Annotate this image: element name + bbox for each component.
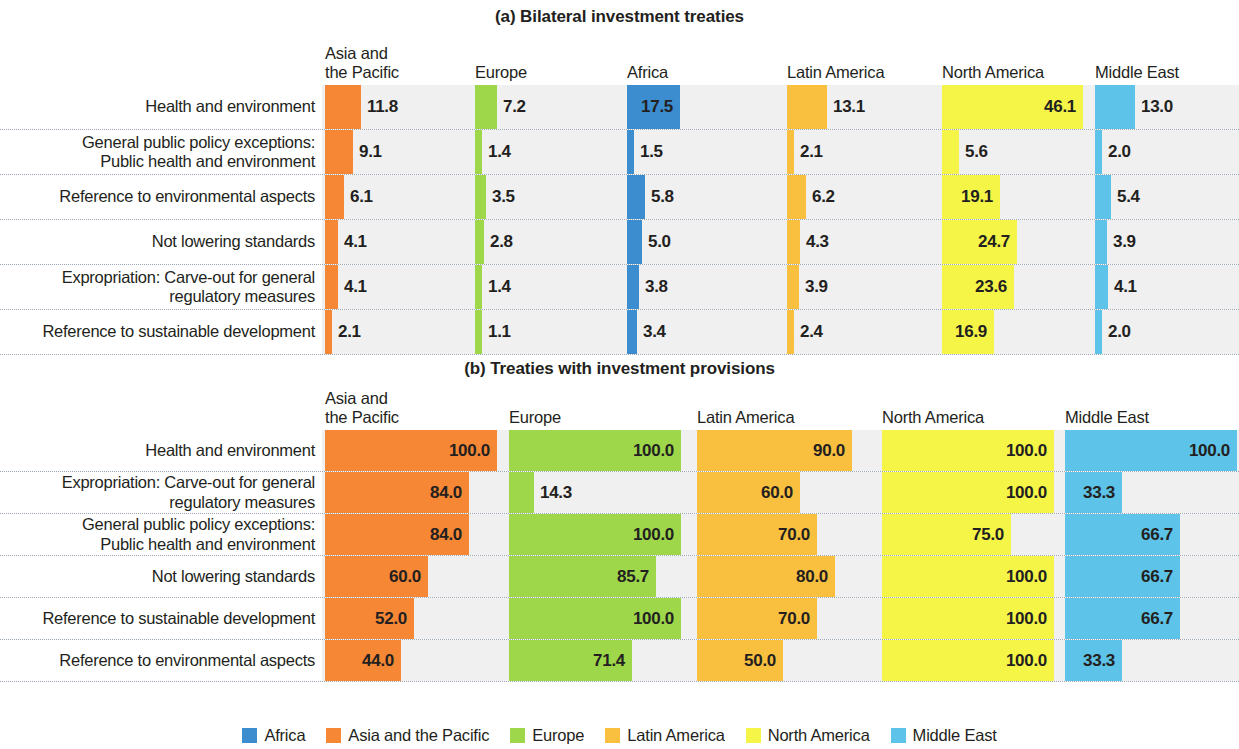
- bar: [787, 310, 794, 354]
- legend-item[interactable]: Africa: [242, 726, 305, 745]
- panel-b-title: (b) Treaties with investment provisions: [0, 355, 1239, 384]
- bar-cell: 23.6: [942, 265, 1014, 309]
- legend-item[interactable]: Middle East: [891, 726, 997, 745]
- panel-a-title: (a) Bilateral investment treaties: [0, 0, 1239, 33]
- plot-area: 9.11.41.52.15.62.0: [322, 130, 1239, 174]
- bar: [325, 265, 338, 309]
- bar-value-label: 2.1: [800, 142, 823, 162]
- bar-cell: 1.4: [475, 265, 511, 309]
- bar-cell: 60.0: [697, 472, 800, 513]
- panel-a-column-headers: Asia and the PacificEuropeAfricaLatin Am…: [0, 33, 1239, 85]
- bar: [627, 175, 645, 219]
- bar: 46.1: [942, 85, 1083, 129]
- legend-swatch-icon: [746, 728, 761, 743]
- bar-cell: 84.0: [325, 472, 469, 513]
- bar-cell: 44.0: [325, 640, 401, 681]
- bar-cell: 3.8: [627, 265, 668, 309]
- panel-b-rows: Health and environment100.0100.090.0100.…: [0, 430, 1239, 682]
- bar-value-label: 70.0: [778, 525, 810, 545]
- bar: [627, 310, 637, 354]
- bar: 44.0: [325, 640, 401, 681]
- bar-cell: 100.0: [509, 514, 681, 555]
- bar-cell: 4.1: [1095, 265, 1137, 309]
- bar-value-label: 100.0: [1006, 441, 1047, 461]
- column-header: North America: [942, 63, 1044, 82]
- bar-value-label: 3.4: [643, 322, 666, 342]
- bar-value-label: 84.0: [430, 525, 462, 545]
- bar: 52.0: [325, 598, 414, 639]
- plot-area: 52.0100.070.0100.066.7: [322, 598, 1239, 639]
- bar: 23.6: [942, 265, 1014, 309]
- chart-row: Health and environment11.87.217.513.146.…: [0, 85, 1239, 130]
- bar-value-label: 2.0: [1108, 322, 1131, 342]
- bar-cell: 3.5: [475, 175, 515, 219]
- chart-row: Health and environment100.0100.090.0100.…: [0, 430, 1239, 472]
- bar: [475, 85, 497, 129]
- bar-value-label: 1.4: [488, 277, 511, 297]
- column-header: Asia and the Pacific: [325, 44, 399, 82]
- legend-swatch-icon: [326, 728, 341, 743]
- bar: [325, 310, 332, 354]
- bar-value-label: 70.0: [778, 609, 810, 629]
- chart-row: Reference to sustainable development52.0…: [0, 598, 1239, 640]
- bar-cell: 3.4: [627, 310, 666, 354]
- legend-label: Middle East: [913, 726, 997, 745]
- column-header: Europe: [475, 63, 527, 82]
- column-header: Asia and the Pacific: [325, 389, 399, 427]
- bar: 75.0: [882, 514, 1011, 555]
- bar: [475, 220, 484, 264]
- bar-value-label: 100.0: [1006, 567, 1047, 587]
- bar: 100.0: [509, 598, 681, 639]
- bar-value-label: 4.1: [344, 277, 367, 297]
- bar-value-label: 1.5: [640, 142, 663, 162]
- bar-value-label: 5.8: [651, 187, 674, 207]
- bar-cell: 1.1: [475, 310, 511, 354]
- bar: 19.1: [942, 175, 1000, 219]
- row-label: Not lowering standards: [0, 220, 322, 264]
- bar-cell: 5.0: [627, 220, 671, 264]
- bar-value-label: 66.7: [1141, 609, 1173, 629]
- legend-label: Africa: [264, 726, 305, 745]
- bar: [787, 175, 806, 219]
- bar: 90.0: [697, 430, 852, 471]
- bar: [475, 175, 486, 219]
- bar-cell: 100.0: [325, 430, 497, 471]
- bar: [787, 220, 800, 264]
- bar-value-label: 9.1: [359, 142, 382, 162]
- bar-value-label: 7.2: [503, 97, 526, 117]
- bar-cell: 66.7: [1065, 514, 1180, 555]
- bar-value-label: 100.0: [1189, 441, 1230, 461]
- bar-cell: 71.4: [509, 640, 632, 681]
- bar: [475, 310, 482, 354]
- bar-value-label: 2.1: [338, 322, 361, 342]
- bar-cell: 13.0: [1095, 85, 1173, 129]
- bar-value-label: 52.0: [375, 609, 407, 629]
- legend-item[interactable]: Asia and the Pacific: [326, 726, 489, 745]
- bar-value-label: 11.8: [367, 97, 398, 117]
- bar-cell: 2.8: [475, 220, 513, 264]
- legend-item[interactable]: Europe: [510, 726, 584, 745]
- bar-value-label: 5.4: [1117, 187, 1140, 207]
- bar-cell: 100.0: [882, 472, 1054, 513]
- legend-item[interactable]: North America: [746, 726, 870, 745]
- bar-value-label: 100.0: [633, 609, 674, 629]
- bar: 66.7: [1065, 514, 1180, 555]
- bar-value-label: 71.4: [593, 651, 625, 671]
- bar: 84.0: [325, 472, 469, 513]
- bar-cell: 100.0: [882, 640, 1054, 681]
- bar-cell: 2.1: [325, 310, 361, 354]
- row-label: General public policy exceptions: Public…: [0, 514, 322, 555]
- bar-value-label: 23.6: [975, 277, 1007, 297]
- bar: [1095, 85, 1135, 129]
- legend: AfricaAsia and the PacificEuropeLatin Am…: [0, 726, 1239, 745]
- bar-cell: 100.0: [882, 556, 1054, 597]
- bar: 24.7: [942, 220, 1017, 264]
- bar-value-label: 33.3: [1083, 483, 1115, 503]
- legend-item[interactable]: Latin America: [605, 726, 724, 745]
- legend-swatch-icon: [510, 728, 525, 743]
- bar-cell: 2.0: [1095, 130, 1131, 174]
- bar-value-label: 19.1: [961, 187, 993, 207]
- legend-label: Asia and the Pacific: [348, 726, 489, 745]
- row-label: Reference to sustainable development: [0, 310, 322, 354]
- bar-cell: 33.3: [1065, 472, 1122, 513]
